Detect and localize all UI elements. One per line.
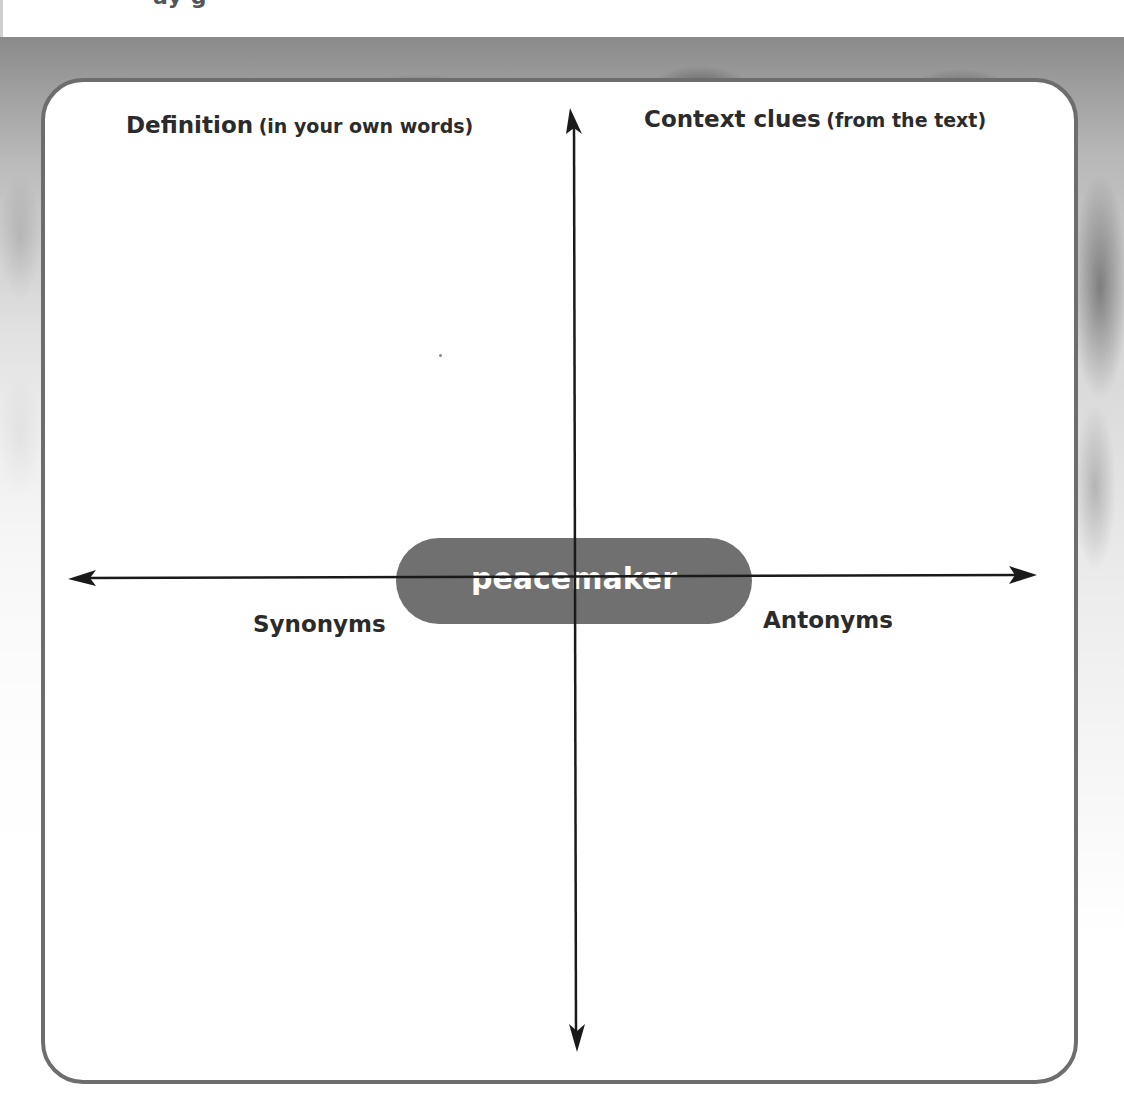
- context-clues-label: Context clues: [644, 106, 821, 132]
- quadrant-label-definition: Definition (in your own words): [126, 112, 473, 138]
- quadrant-label-context-clues: Context clues (from the text): [644, 106, 986, 132]
- background-fade: [0, 150, 44, 1115]
- definition-label: Definition: [126, 112, 253, 138]
- quadrant-label-antonyms: Antonyms: [763, 607, 893, 633]
- quadrant-label-synonyms: Synonyms: [253, 611, 386, 637]
- center-word: peacemaker: [396, 538, 752, 624]
- stray-mark: [439, 354, 442, 357]
- context-clues-hint: (from the text): [826, 109, 986, 131]
- cropped-heading: ay g: [153, 0, 207, 9]
- top-strip: ay g: [0, 0, 1124, 37]
- definition-hint: (in your own words): [259, 115, 474, 137]
